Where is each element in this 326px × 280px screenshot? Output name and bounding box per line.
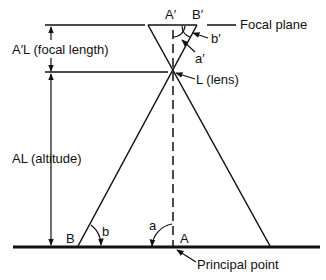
lens-pointer xyxy=(176,73,195,79)
label-a-angle: a xyxy=(149,218,157,233)
label-a-ground: A xyxy=(180,231,189,246)
ray-b-to-b-prime xyxy=(78,25,197,246)
label-a-prime: A′ xyxy=(165,7,177,22)
label-altitude: AL (altitude) xyxy=(12,151,82,166)
angle-b-prime-arc xyxy=(182,26,190,37)
label-principal-point: Principal point xyxy=(197,257,279,272)
label-b-ground: B xyxy=(66,231,75,246)
label-a-prime-angle: a′ xyxy=(195,51,205,66)
principal-point-pointer xyxy=(177,250,196,262)
label-b-angle: b xyxy=(102,224,109,239)
label-focal-plane: Focal plane xyxy=(240,17,307,32)
label-b-prime: B′ xyxy=(192,7,204,22)
label-focal-length: A′L (focal length) xyxy=(12,42,109,57)
photogrammetry-diagram: A′ B′ Focal plane b′ a′ L (lens) A′L (fo… xyxy=(0,0,326,280)
label-b-prime-angle: b′ xyxy=(211,31,221,46)
b-prime-pointer xyxy=(193,33,208,38)
label-lens: L (lens) xyxy=(196,72,239,87)
angle-b-arc xyxy=(91,225,101,245)
ray-right-to-left-corner xyxy=(148,25,270,246)
